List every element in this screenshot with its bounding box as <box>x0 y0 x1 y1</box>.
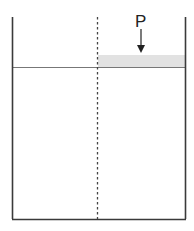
arrow-down-icon <box>137 45 145 53</box>
container-diagram: P <box>0 0 194 231</box>
shaded-load-region <box>98 55 185 67</box>
load-label: P <box>135 12 146 31</box>
